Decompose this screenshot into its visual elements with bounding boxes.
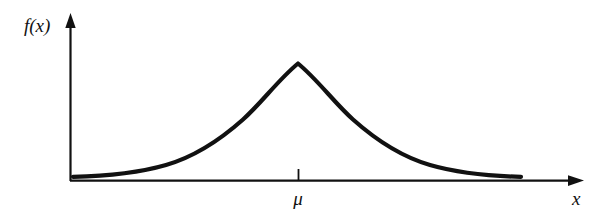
normal-distribution-curve xyxy=(73,64,521,177)
arrow-right-icon xyxy=(568,175,584,186)
mean-tick-label: μ xyxy=(292,188,303,209)
figure-canvas: f(x) x μ xyxy=(0,0,607,214)
arrow-up-icon xyxy=(65,13,75,28)
y-axis-label: f(x) xyxy=(24,15,50,37)
normal-distribution-figure: f(x) x μ xyxy=(0,0,607,214)
x-axis-label: x xyxy=(571,188,581,209)
